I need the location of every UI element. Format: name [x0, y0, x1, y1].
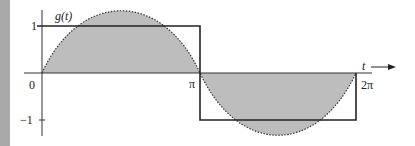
y-tick-label-one: 1 [31, 19, 37, 33]
square-wave-diagram: g(t) 1 0 −1 π 2π t [0, 0, 415, 146]
y-tick-label-minus-one: −1 [20, 113, 33, 127]
t-arrow-head-icon [388, 64, 396, 70]
function-label: g(t) [55, 9, 72, 23]
x-tick-label-two-pi: 2π [361, 78, 373, 92]
y-tick-label-zero: 0 [29, 78, 35, 92]
x-tick-label-pi: π [189, 77, 195, 91]
sine-fill-negative [200, 73, 356, 135]
t-axis-label: t [362, 59, 366, 73]
